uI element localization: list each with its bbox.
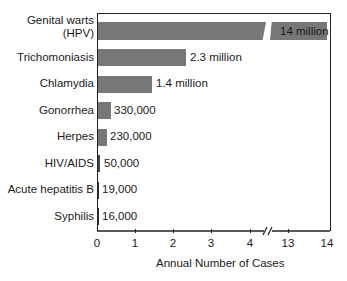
bar-trichomoniasis xyxy=(98,49,186,66)
x-tick-label-0: 0 xyxy=(87,237,107,249)
x-tick-13 xyxy=(288,229,289,233)
category-label-line2: (HPV) xyxy=(27,27,94,40)
category-label-syphilis: Syphilis xyxy=(54,210,94,223)
value-label-chlamydia: 1.4 million xyxy=(156,77,208,90)
category-label-trichomoniasis: Trichomoniasis xyxy=(17,51,94,64)
category-label-acute-hepatitis-b: Acute hepatitis B xyxy=(8,183,94,196)
value-label-syphilis: 16,000 xyxy=(102,210,137,223)
value-label-acute-hepatitis-b: 19,000 xyxy=(102,183,137,196)
x-tick-4 xyxy=(250,229,251,233)
category-label-genital-warts: Genital warts (HPV) xyxy=(27,14,94,40)
bar-hiv-aids xyxy=(98,155,100,172)
x-tick-label-1: 1 xyxy=(125,237,145,249)
x-tick-label-2: 2 xyxy=(163,237,183,249)
bar-herpes xyxy=(98,129,107,146)
value-label-hiv-aids: 50,000 xyxy=(104,157,139,170)
category-label-gonorrhea: Gonorrhea xyxy=(39,104,94,117)
category-label-line1: Genital warts xyxy=(27,14,94,27)
bar-acute-hepatitis-b xyxy=(98,182,99,199)
category-label-herpes: Herpes xyxy=(57,130,94,143)
category-label-chlamydia: Chlamydia xyxy=(40,77,94,90)
bar-genital-warts-part1 xyxy=(98,22,266,40)
x-tick-label-13: 13 xyxy=(278,237,298,249)
bar-gonorrhea xyxy=(98,102,111,119)
category-label-hiv-aids: HIV/AIDS xyxy=(45,157,94,170)
x-axis-title: Annual Number of Cases xyxy=(156,257,284,269)
bar-chlamydia xyxy=(98,76,152,93)
x-tick-2 xyxy=(173,229,174,233)
x-tick-label-14: 14 xyxy=(317,237,337,249)
value-label-trichomoniasis: 2.3 million xyxy=(190,51,242,64)
x-tick-label-4: 4 xyxy=(240,237,260,249)
x-tick-1 xyxy=(135,229,136,233)
horizontal-bar-chart: Genital warts (HPV) Trichomoniasis Chlam… xyxy=(0,0,347,281)
value-label-genital-warts: 14 million xyxy=(280,25,329,38)
bar-syphilis xyxy=(98,208,99,225)
x-tick-3 xyxy=(211,229,212,233)
value-label-gonorrhea: 330,000 xyxy=(114,104,156,117)
value-label-herpes: 230,000 xyxy=(110,130,152,143)
x-tick-label-3: 3 xyxy=(201,237,221,249)
